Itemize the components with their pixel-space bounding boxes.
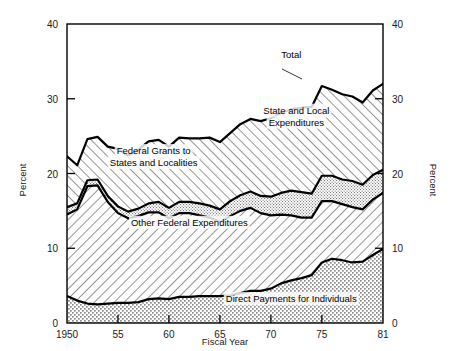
plot-areas [67, 84, 383, 323]
series-annotation: Other Federal Expenditures [131, 217, 248, 228]
x-tick-label: 81 [377, 329, 389, 340]
y-tick-label-left: 40 [47, 19, 59, 30]
series-annotation: Expenditures [269, 117, 325, 128]
y-tick-label-right: 0 [392, 318, 398, 329]
total-leader-line [282, 69, 302, 79]
y-tick-label-right: 40 [392, 19, 404, 30]
x-tick-label: 60 [163, 329, 175, 340]
x-tick-label: 70 [265, 329, 277, 340]
y-tick-label-right: 10 [392, 243, 404, 254]
series-annotation: Federal Grants to [117, 145, 191, 156]
x-tick-label: 75 [316, 329, 328, 340]
x-axis-label: Fiscal Year [202, 336, 248, 347]
y-tick-label-right: 20 [392, 169, 404, 180]
y-tick-label-left: 30 [47, 94, 59, 105]
series-annotation: Direct Payments for Individuals [226, 293, 357, 304]
y-axis-label-left: Percent [17, 163, 28, 196]
y-tick-label-left: 0 [52, 318, 58, 329]
y-tick-label-left: 10 [47, 243, 59, 254]
y-tick-label-right: 30 [392, 94, 404, 105]
series-annotation: Total [281, 49, 301, 60]
series-annotation: State and Local [263, 105, 329, 116]
y-axis-label-right: Percent [428, 164, 439, 197]
series-annotation: States and Localities [110, 157, 198, 168]
x-tick-label: 55 [112, 329, 124, 340]
chart-figure: 010203040 010203040 1950556065707581 Per… [0, 0, 452, 351]
y-tick-label-left: 20 [47, 169, 59, 180]
x-tick-label: 1950 [56, 329, 79, 340]
